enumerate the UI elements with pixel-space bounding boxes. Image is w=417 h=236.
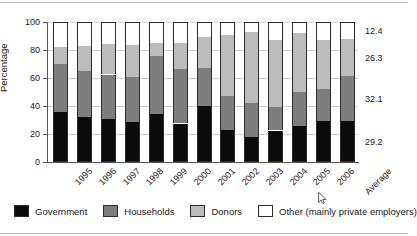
- bar-segment[interactable]: [77, 46, 92, 71]
- bar-segment[interactable]: [220, 130, 235, 162]
- value-label: 29.2: [365, 137, 383, 147]
- bar-segment[interactable]: [125, 45, 140, 77]
- bar-segment[interactable]: [77, 22, 92, 46]
- y-axis-title: Percentage: [0, 43, 9, 92]
- bar-segment[interactable]: [197, 37, 212, 68]
- bar-column[interactable]: [244, 22, 259, 162]
- bar-segment[interactable]: [268, 22, 283, 40]
- bar-segment[interactable]: [77, 71, 92, 117]
- bar-segment[interactable]: [173, 69, 188, 124]
- bar-column[interactable]: [340, 22, 355, 162]
- bar-segment[interactable]: [149, 114, 164, 162]
- light-gray-swatch: [190, 205, 205, 217]
- mouse-cursor-icon: [318, 192, 327, 204]
- legend-item[interactable]: Government: [14, 205, 87, 217]
- y-axis-tick-label: 100: [25, 18, 40, 27]
- bar-column[interactable]: [77, 22, 92, 162]
- black-swatch: [14, 205, 29, 217]
- bar-column[interactable]: [268, 22, 283, 162]
- bar-segment[interactable]: [173, 22, 188, 43]
- bar-segment[interactable]: [53, 47, 68, 64]
- y-axis-tick-label: 60: [30, 74, 40, 83]
- y-axis-tick: [43, 162, 48, 163]
- bar-segment[interactable]: [316, 121, 331, 162]
- bar-column[interactable]: [316, 22, 331, 162]
- dark-gray-swatch: [103, 205, 118, 217]
- bar-segment[interactable]: [53, 64, 68, 112]
- x-axis-tick-label: 2004: [287, 166, 308, 187]
- white-swatch: [258, 205, 273, 217]
- bar-segment[interactable]: [101, 119, 116, 162]
- y-axis-tick-label: 40: [30, 102, 40, 111]
- bar-segment[interactable]: [268, 131, 283, 163]
- x-axis-tick-label: 1996: [97, 166, 118, 187]
- bar-segment[interactable]: [268, 40, 283, 107]
- bar-segment[interactable]: [316, 40, 331, 89]
- bar-segment[interactable]: [101, 22, 116, 44]
- bar-segment[interactable]: [244, 22, 259, 32]
- bar-segment[interactable]: [149, 22, 164, 43]
- top-divider-rule: [0, 2, 408, 3]
- bar-segment[interactable]: [77, 117, 92, 162]
- bar-column[interactable]: [149, 22, 164, 162]
- bar-segment[interactable]: [173, 43, 188, 69]
- x-axis-tick-label: 1998: [144, 166, 165, 187]
- bar-column[interactable]: [292, 22, 307, 162]
- x-axis-tick-label: 1999: [168, 166, 189, 187]
- bar-segment[interactable]: [340, 39, 355, 76]
- bar-column[interactable]: [53, 22, 68, 162]
- legend-item-label: Other (mainly private employers): [279, 206, 417, 217]
- bar-segment[interactable]: [149, 56, 164, 114]
- bar-segment[interactable]: [340, 121, 355, 162]
- x-axis-tick-label: 2005: [311, 166, 332, 187]
- legend-item-label: Donors: [211, 206, 242, 217]
- bar-column[interactable]: [125, 22, 140, 162]
- bar-segment[interactable]: [197, 106, 212, 162]
- bar-segment[interactable]: [292, 126, 307, 162]
- value-label: 32.1: [365, 94, 383, 104]
- bar-segment[interactable]: [173, 124, 188, 163]
- bar-segment[interactable]: [268, 107, 283, 130]
- bar-segment[interactable]: [197, 68, 212, 106]
- bar-segment[interactable]: [292, 92, 307, 126]
- bar-segment[interactable]: [125, 22, 140, 45]
- bar-segment[interactable]: [149, 43, 164, 56]
- bar-column[interactable]: [220, 22, 235, 162]
- bar-segment[interactable]: [292, 33, 307, 93]
- bar-segment[interactable]: [220, 35, 235, 97]
- bar-segment[interactable]: [53, 22, 68, 47]
- bar-segment[interactable]: [125, 122, 140, 162]
- bar-column[interactable]: [197, 22, 212, 162]
- bar-segment[interactable]: [316, 22, 331, 40]
- bar-segment[interactable]: [101, 44, 116, 74]
- x-axis-tick-label: 1995: [73, 166, 94, 187]
- x-axis-tick-label: Average: [363, 166, 394, 197]
- plot-area: 020406080100: [48, 22, 358, 162]
- bar-segment[interactable]: [220, 96, 235, 130]
- bar-segment[interactable]: [292, 22, 307, 33]
- legend-item[interactable]: Donors: [190, 205, 242, 217]
- bar-segment[interactable]: [340, 76, 355, 121]
- x-axis-tick-label: 2003: [264, 166, 285, 187]
- bar-column[interactable]: [101, 22, 116, 162]
- x-axis-tick-label: 2006: [335, 166, 356, 187]
- bar-segment[interactable]: [53, 112, 68, 162]
- bar-segment[interactable]: [197, 22, 212, 37]
- legend-item[interactable]: Other (mainly private employers): [258, 205, 417, 217]
- bar-segment[interactable]: [101, 75, 116, 119]
- bar-segment[interactable]: [340, 22, 355, 39]
- x-axis-tick-label: 2000: [192, 166, 213, 187]
- bar-segment[interactable]: [244, 137, 259, 162]
- legend-item-label: Households: [124, 206, 174, 217]
- x-axis-line: [47, 162, 359, 163]
- bar-segment[interactable]: [244, 103, 259, 137]
- y-axis-tick-label: 80: [30, 46, 40, 55]
- bar-segment[interactable]: [220, 22, 235, 35]
- bar-segment[interactable]: [125, 77, 140, 123]
- bar-column[interactable]: [173, 22, 188, 162]
- bar-series-group: [48, 22, 358, 162]
- bar-segment[interactable]: [316, 89, 331, 121]
- bar-segment[interactable]: [244, 32, 259, 103]
- legend-item[interactable]: Households: [103, 205, 174, 217]
